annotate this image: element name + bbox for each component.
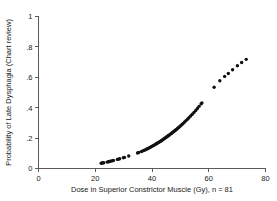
y-axis-title: Probability of Late Dysphagia (Chart rev… [4,19,13,166]
data-point [212,85,215,88]
x-tick-label: 40 [148,174,156,183]
data-point [200,101,203,104]
x-axis-title: Dose in Superior Constrictor Muscle (Gy)… [71,185,233,194]
data-point [236,64,239,67]
data-point [245,58,248,61]
x-tick-label: 60 [205,174,213,183]
data-point [102,161,105,164]
data-point [218,79,221,82]
y-tick-label: 0 [28,164,32,173]
data-point [231,68,234,71]
scatter-plot-svg: 0204060800.2.4.6.81Dose in Superior Cons… [0,0,277,201]
data-point [127,154,130,157]
data-point [123,156,126,159]
chart-figure: 0204060800.2.4.6.81Dose in Superior Cons… [0,0,277,201]
data-point-group [100,58,248,165]
x-tick-label: 80 [261,174,269,183]
y-tick-label: .8 [26,43,32,52]
data-point [240,61,243,64]
data-point [118,157,121,160]
y-tick-label: .4 [26,104,32,113]
y-tick-label: .6 [26,73,32,82]
data-point [227,72,230,75]
x-tick-label: 0 [36,174,40,183]
data-point [112,159,115,162]
x-tick-label: 20 [91,174,99,183]
data-point [223,75,226,78]
y-tick-label: 1 [28,12,32,21]
y-tick-label: .2 [26,134,32,143]
